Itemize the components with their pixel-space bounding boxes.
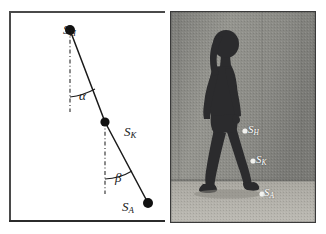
- knee-marker-dot: [250, 158, 255, 163]
- knee-point-marker: [100, 117, 109, 126]
- photo-graphics: [170, 11, 316, 223]
- diagram-label-hip: SH: [63, 23, 76, 38]
- diagram-label-alpha: α: [79, 89, 86, 102]
- diagram-graphics: [9, 11, 165, 222]
- photo-panel: SH SK SA: [170, 11, 316, 223]
- diagram-label-beta: β: [115, 171, 121, 184]
- photo-label-hip: SH: [248, 124, 259, 136]
- figure-root: SH SK SA α β: [0, 0, 326, 234]
- diagram-label-ankle: SA: [122, 200, 134, 215]
- photo-label-ankle: SA: [264, 187, 274, 199]
- diagram-label-knee: SK: [124, 125, 136, 140]
- hip-marker-dot: [242, 128, 247, 133]
- ankle-point-marker: [143, 198, 153, 208]
- photo-label-knee: SK: [256, 154, 266, 166]
- thigh-segment: [70, 30, 105, 122]
- diagram-panel: SH SK SA α β: [9, 11, 165, 222]
- subject-floor-shadow: [194, 190, 262, 199]
